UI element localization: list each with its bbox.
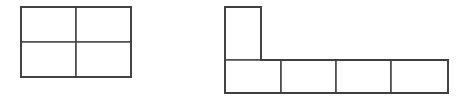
- cell-bottom-c4: [391, 60, 448, 93]
- cell-bottom-c1: [225, 60, 281, 93]
- cell-bottom-c2: [281, 60, 336, 93]
- shape-l-pentomino: [225, 7, 448, 93]
- cell-r1c1: [21, 7, 76, 42]
- cell-r2c1: [21, 42, 76, 77]
- cell-bottom-c3: [336, 60, 391, 93]
- cell-r2c2: [76, 42, 131, 77]
- cell-top-c1: [225, 7, 261, 60]
- polyomino-figure-svg: [0, 0, 467, 102]
- shape-square-tetromino: [21, 7, 131, 77]
- figure-canvas: [0, 0, 467, 102]
- cell-r1c2: [76, 7, 131, 42]
